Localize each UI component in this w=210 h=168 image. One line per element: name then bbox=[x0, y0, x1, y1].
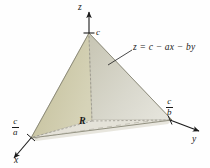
axis-label-y: y bbox=[192, 135, 196, 145]
fraction-numerator: c bbox=[166, 97, 173, 106]
figure-canvas bbox=[0, 0, 210, 168]
figure-tetrahedron: z c z = c − ax − by R c b y c a x bbox=[0, 0, 210, 168]
axis-z bbox=[84, 12, 95, 33]
region-label-R: R bbox=[79, 116, 86, 126]
fraction-denominator: b bbox=[166, 108, 173, 117]
fraction-numerator: c bbox=[12, 117, 19, 126]
axis-intercept-c-over-b: c b bbox=[166, 97, 173, 118]
axis-y bbox=[168, 116, 199, 132]
axis-tick-label-c: c bbox=[96, 28, 100, 37]
surface-equation-label: z = c − ax − by bbox=[133, 43, 195, 53]
axis-intercept-c-over-a: c a bbox=[12, 117, 19, 138]
axis-label-x: x bbox=[14, 156, 18, 166]
axis-y-line bbox=[170, 120, 199, 131]
fraction-denominator: a bbox=[12, 128, 19, 137]
axis-label-z: z bbox=[78, 3, 82, 13]
